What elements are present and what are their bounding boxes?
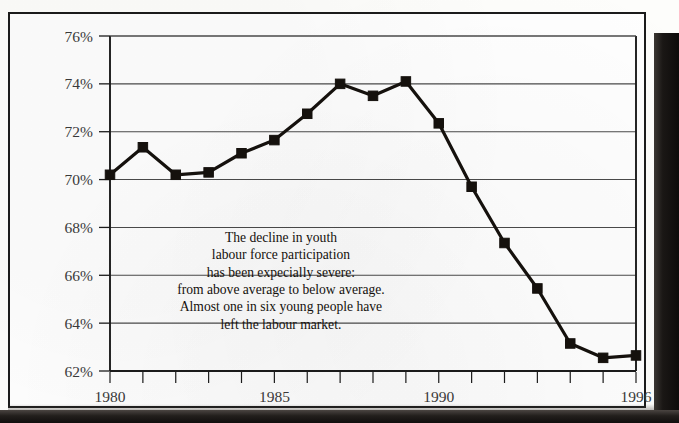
x-tick-label: 1985 bbox=[259, 388, 290, 405]
data-series-markers bbox=[105, 77, 641, 363]
data-point-marker bbox=[335, 79, 345, 89]
x-tick-label: 1990 bbox=[423, 388, 454, 405]
data-point-marker bbox=[105, 170, 115, 180]
annotation-line: left the labour market. bbox=[221, 317, 342, 332]
data-point-marker bbox=[368, 91, 378, 101]
y-axis-tick-labels: 76%74%72%70%68%66%64%62% bbox=[65, 28, 94, 380]
gridlines bbox=[110, 36, 636, 323]
annotation-line: The decline in youth bbox=[225, 230, 337, 245]
y-tick-label: 64% bbox=[65, 315, 94, 332]
data-point-marker bbox=[138, 143, 148, 153]
line-chart: 76%74%72%70%68%66%64%62% 198019851990199… bbox=[0, 0, 679, 423]
chart-annotation: The decline in youthlabour force partici… bbox=[177, 230, 385, 332]
data-point-marker bbox=[204, 168, 214, 178]
page-shadow-right bbox=[654, 33, 679, 423]
y-tick-label: 62% bbox=[65, 363, 94, 380]
y-tick-label: 72% bbox=[65, 123, 94, 140]
annotation-line: labour force participation bbox=[212, 247, 350, 262]
x-axis-tick-marks bbox=[110, 372, 636, 383]
series-line bbox=[110, 81, 636, 357]
y-axis-tick-marks bbox=[99, 36, 110, 371]
data-point-marker bbox=[598, 353, 608, 363]
data-point-marker bbox=[631, 351, 641, 361]
data-point-marker bbox=[237, 149, 247, 159]
y-tick-label: 66% bbox=[65, 267, 94, 284]
data-series-line bbox=[110, 81, 636, 357]
data-point-marker bbox=[171, 170, 181, 180]
x-tick-label: 1980 bbox=[95, 388, 126, 405]
annotation-line: from above average to below average. bbox=[177, 282, 385, 297]
y-tick-label: 76% bbox=[65, 28, 94, 45]
chart-svg: 76%74%72%70%68%66%64%62% 198019851990199… bbox=[0, 0, 679, 423]
data-point-marker bbox=[303, 109, 313, 119]
x-axis-tick-labels: 1980198519901996 bbox=[95, 388, 652, 405]
y-tick-label: 68% bbox=[65, 219, 94, 236]
annotation-line: Almost one in six young people have bbox=[180, 299, 382, 314]
y-tick-label: 70% bbox=[65, 171, 94, 188]
data-point-marker bbox=[467, 182, 477, 192]
x-tick-label: 1996 bbox=[621, 388, 652, 405]
scanned-page: 76%74%72%70%68%66%64%62% 198019851990199… bbox=[0, 0, 679, 423]
data-point-marker bbox=[566, 339, 576, 349]
data-point-marker bbox=[500, 238, 510, 248]
data-point-marker bbox=[270, 135, 280, 145]
page-shadow-bottom bbox=[0, 410, 679, 423]
y-tick-label: 74% bbox=[65, 75, 94, 92]
data-point-marker bbox=[401, 77, 411, 87]
data-point-marker bbox=[434, 119, 444, 129]
data-point-marker bbox=[533, 284, 543, 294]
annotation-line: has been expecially severe: bbox=[207, 265, 355, 280]
